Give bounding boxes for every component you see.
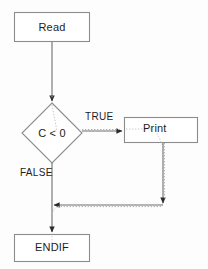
node-condition-label: C < 0 — [22, 127, 82, 139]
edge-label-true: TRUE — [85, 111, 113, 122]
flowchart-canvas: Read C < 0 Print ENDIF TRUE FALSE — [0, 0, 208, 269]
node-read-label: Read — [14, 21, 90, 33]
return-join-curve — [52, 207, 58, 216]
node-print-label: Print — [143, 122, 167, 134]
node-endif-label: ENDIF — [14, 241, 90, 253]
edge-label-false: FALSE — [20, 167, 53, 178]
